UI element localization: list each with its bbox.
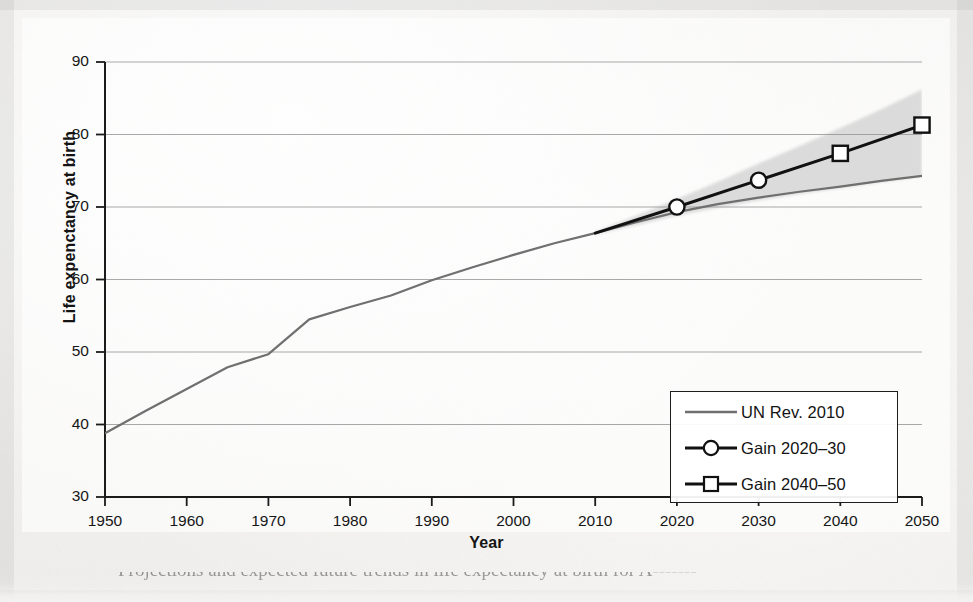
- y-axis-title-wrap: Life expenctancy at birth: [61, 112, 79, 342]
- y-tick-label-50: 50: [43, 342, 89, 360]
- x-tick-label-2030: 2030: [724, 512, 794, 530]
- legend-label-gain-2040-50: Gain 2040–50: [741, 475, 846, 494]
- uncertainty-band: [595, 90, 922, 235]
- x-tick-label-2000: 2000: [479, 512, 549, 530]
- figure-caption-text: Projections and expected future trends i…: [118, 572, 697, 581]
- x-tick-label-1970: 1970: [233, 512, 303, 530]
- circle-marker-icon: [683, 437, 739, 459]
- figure-page: 30405060708090 1950196019701980199020002…: [0, 0, 973, 602]
- y-tick-label-40: 40: [43, 415, 89, 433]
- x-tick-label-2050: 2050: [887, 512, 957, 530]
- chart-legend[interactable]: UN Rev. 2010 Gain 2020–30: [670, 391, 898, 503]
- y-tick-label-90: 90: [43, 52, 89, 70]
- x-axis-title: Year: [0, 534, 973, 552]
- y-tick-label-30: 30: [43, 487, 89, 505]
- x-tick-label-2020: 2020: [642, 512, 712, 530]
- x-tick-label-2010: 2010: [560, 512, 630, 530]
- legend-label-un-rev-2010: UN Rev. 2010: [741, 403, 845, 422]
- x-tick-label-1960: 1960: [152, 512, 222, 530]
- data-point-circle-2030[interactable]: [751, 173, 766, 188]
- x-tick-label-2040: 2040: [805, 512, 875, 530]
- data-point-square-2050[interactable]: [914, 117, 929, 132]
- legend-item-gain-2040-50[interactable]: Gain 2040–50: [671, 468, 899, 500]
- chart-area: 30405060708090 1950196019701980199020002…: [22, 18, 950, 532]
- square-marker-icon: [683, 473, 739, 495]
- legend-swatch-line: [683, 401, 739, 423]
- legend-label-gain-2020-30: Gain 2020–30: [741, 439, 846, 458]
- x-tick-label-1950: 1950: [70, 512, 140, 530]
- y-axis-ticks: [96, 62, 105, 497]
- figure-caption-strip: Projections and expected future trends i…: [0, 572, 973, 602]
- data-point-circle-2020[interactable]: [669, 199, 684, 214]
- y-axis-title: Life expenctancy at birth: [61, 131, 78, 323]
- data-point-square-2040[interactable]: [833, 146, 848, 161]
- gridlines: [105, 62, 922, 425]
- legend-item-gain-2020-30[interactable]: Gain 2020–30: [671, 432, 899, 464]
- x-tick-label-1990: 1990: [397, 512, 467, 530]
- legend-item-un-rev-2010[interactable]: UN Rev. 2010: [671, 396, 899, 428]
- x-tick-label-1980: 1980: [315, 512, 385, 530]
